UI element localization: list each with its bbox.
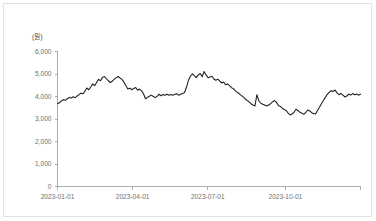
line-chart: (원) 6,0005,0004,0003,0002,0001,0000 2023… — [4, 4, 376, 221]
y-axis-tick-label: 0 — [48, 183, 52, 190]
y-axis: 6,0005,0004,0003,0002,0001,0000 — [35, 48, 58, 190]
chart-frame: (원) 6,0005,0004,0003,0002,0001,0000 2023… — [3, 3, 372, 217]
y-axis-tick-label: 5,000 — [35, 70, 52, 77]
x-axis-tick-label: 2023-07-01 — [191, 193, 225, 200]
series-line-price — [58, 72, 361, 115]
y-axis-tick-label: 4,000 — [35, 93, 52, 100]
x-axis-tick-label: 2023-01-01 — [41, 193, 75, 200]
y-axis-unit-group: (원) — [32, 32, 43, 41]
series-group — [58, 72, 361, 115]
y-axis-tick-label: 2,000 — [35, 138, 52, 145]
y-axis-tick-label: 1,000 — [35, 160, 52, 167]
x-axis-tick-label: 2023-10-01 — [269, 193, 303, 200]
y-axis-unit-label: (원) — [32, 32, 43, 41]
y-axis-tick-label: 6,000 — [35, 48, 52, 55]
y-axis-tick-label: 3,000 — [35, 115, 52, 122]
x-axis-tick-label: 2023-04-01 — [116, 193, 150, 200]
x-axis: 2023-01-012023-04-012023-07-012023-10-01 — [41, 187, 361, 200]
